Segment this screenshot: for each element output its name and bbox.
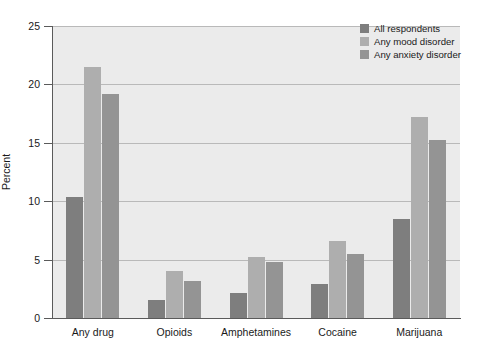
bar xyxy=(266,262,283,318)
bar-chart-figure: 0510152025 Percent Any drugOpioidsAmphet… xyxy=(0,0,495,353)
y-axis-tick-label: 25 xyxy=(28,20,40,32)
legend-label: Any mood disorder xyxy=(374,37,455,47)
x-axis-category-label: Marijuana xyxy=(396,326,442,338)
bar xyxy=(230,293,247,318)
bar xyxy=(248,257,265,318)
legend-item: All respondents xyxy=(360,24,461,34)
y-axis-tick-mark xyxy=(44,143,52,144)
y-axis-line xyxy=(52,26,53,319)
bar xyxy=(102,94,119,318)
y-axis-tick-label: 15 xyxy=(28,137,40,149)
y-axis-label: Percent xyxy=(0,154,12,190)
legend-swatch-icon xyxy=(360,37,369,46)
bar xyxy=(393,219,410,318)
bar xyxy=(411,117,428,318)
y-axis-tick-label: 0 xyxy=(34,312,40,324)
x-axis-category-label: Amphetamines xyxy=(221,326,291,338)
bar xyxy=(184,281,201,318)
y-axis-tick-label: 5 xyxy=(34,254,40,266)
y-axis-tick-mark xyxy=(44,26,52,27)
y-axis-tick-mark xyxy=(44,318,52,319)
bar xyxy=(166,271,183,318)
bar xyxy=(311,284,328,318)
legend-swatch-icon xyxy=(360,24,369,33)
y-axis-tick-label: 10 xyxy=(28,195,40,207)
legend-label: Any anxiety disorder xyxy=(374,50,461,60)
x-axis-category-label: Any drug xyxy=(72,326,114,338)
bar xyxy=(329,241,346,318)
chart-legend: All respondentsAny mood disorderAny anxi… xyxy=(360,24,461,63)
x-axis-category-label: Cocaine xyxy=(318,326,357,338)
x-axis-category-label: Opioids xyxy=(157,326,193,338)
y-axis-tick-mark xyxy=(44,260,52,261)
bar xyxy=(347,254,364,318)
y-axis-tick-mark xyxy=(44,84,52,85)
legend-swatch-icon xyxy=(360,50,369,59)
bar xyxy=(429,140,446,318)
x-axis-line xyxy=(52,318,461,319)
bar xyxy=(66,197,83,318)
y-axis-tick-label: 20 xyxy=(28,78,40,90)
y-axis-tick-mark xyxy=(44,201,52,202)
legend-label: All respondents xyxy=(374,24,440,34)
legend-item: Any anxiety disorder xyxy=(360,50,461,60)
bar xyxy=(148,300,165,318)
gridline xyxy=(52,84,460,85)
legend-item: Any mood disorder xyxy=(360,37,461,47)
bar xyxy=(84,67,101,318)
